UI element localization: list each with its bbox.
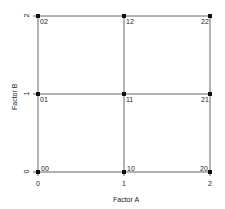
y-axis-label: Factor B	[11, 84, 18, 110]
plot-canvas	[0, 0, 225, 209]
y-tick-label-2: 2	[23, 14, 30, 18]
marker-00	[36, 170, 40, 174]
factorial-design-plot: 00 10 20 01 11 21 02 12 22 0 1 2 0 1 2 F…	[0, 0, 225, 209]
point-label-00: 00	[41, 165, 49, 172]
x-tick-label-1: 1	[122, 180, 126, 187]
point-label-01: 01	[40, 96, 48, 103]
x-tick-label-2: 2	[208, 180, 212, 187]
marker-10	[122, 170, 126, 174]
point-label-12: 12	[126, 18, 134, 25]
point-label-22: 22	[201, 18, 209, 25]
marker-20	[208, 170, 212, 174]
point-label-20: 20	[200, 165, 208, 172]
point-label-21: 21	[201, 96, 209, 103]
x-axis-label: Factor A	[113, 196, 139, 203]
x-tick-label-0: 0	[36, 180, 40, 187]
point-label-11: 11	[126, 96, 133, 103]
point-label-10: 10	[127, 165, 135, 172]
y-tick-label-0: 0	[23, 170, 30, 174]
point-label-02: 02	[40, 18, 48, 25]
y-tick-label-1: 1	[23, 92, 30, 96]
